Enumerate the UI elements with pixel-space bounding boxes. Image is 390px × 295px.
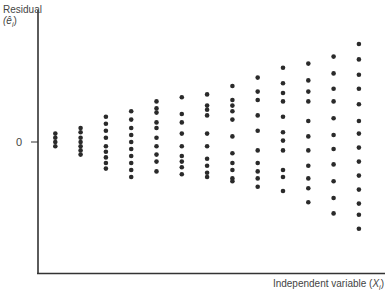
data-point <box>281 175 286 180</box>
data-point <box>180 112 185 117</box>
data-point <box>281 91 286 96</box>
data-point <box>331 99 336 104</box>
data-point <box>281 115 286 120</box>
data-point <box>331 54 336 59</box>
data-point <box>281 130 286 135</box>
data-point <box>154 169 159 174</box>
data-point <box>205 144 210 149</box>
data-point <box>281 81 286 86</box>
data-point <box>230 151 235 156</box>
data-point <box>78 130 83 135</box>
y-axis-label-close: ) <box>13 15 16 26</box>
data-point <box>205 171 210 176</box>
data-point <box>357 119 362 124</box>
data-point <box>331 179 336 184</box>
data-point <box>205 103 210 108</box>
data-point <box>281 189 286 194</box>
data-point <box>357 87 362 92</box>
data-point <box>230 109 235 114</box>
data-point <box>205 157 210 162</box>
data-point <box>104 150 109 155</box>
data-point <box>306 61 311 66</box>
data-point <box>205 175 210 180</box>
data-point <box>331 211 336 216</box>
data-point <box>104 144 109 149</box>
data-point <box>281 138 286 143</box>
data-point <box>154 99 159 104</box>
data-point <box>255 148 260 153</box>
data-point <box>180 144 185 149</box>
data-point <box>281 99 286 104</box>
data-point <box>255 129 260 134</box>
data-point <box>154 126 159 131</box>
data-point <box>306 186 311 191</box>
zero-tick-label: 0 <box>16 136 22 148</box>
data-point <box>357 42 362 47</box>
data-point <box>205 92 210 97</box>
data-point <box>281 148 286 153</box>
data-point <box>357 131 362 136</box>
data-point <box>331 87 336 92</box>
data-point <box>78 140 83 145</box>
data-point <box>230 179 235 184</box>
data-point <box>306 134 311 139</box>
data-point <box>357 213 362 218</box>
data-point <box>230 98 235 103</box>
data-point <box>104 161 109 166</box>
data-point <box>306 176 311 181</box>
data-point <box>357 173 362 178</box>
data-point <box>357 227 362 232</box>
data-point <box>104 122 109 127</box>
data-point <box>281 168 286 173</box>
data-point <box>78 144 83 149</box>
data-point <box>180 120 185 125</box>
data-point <box>306 119 311 124</box>
data-point <box>306 99 311 104</box>
x-axis-label: Independent variable (Xi) <box>273 278 384 291</box>
data-point <box>331 71 336 76</box>
data-point <box>129 117 134 122</box>
data-point <box>230 117 235 122</box>
data-point <box>180 172 185 177</box>
data-point <box>78 152 83 157</box>
x-axis-label-text: Independent variable ( <box>273 278 373 289</box>
data-point <box>230 161 235 166</box>
data-point <box>180 154 185 159</box>
data-point <box>306 148 311 153</box>
data-point <box>281 66 286 71</box>
data-point <box>331 196 336 201</box>
y-axis-label-open: (ê <box>3 15 12 26</box>
data-point <box>331 133 336 138</box>
data-point <box>154 152 159 157</box>
data-point <box>255 161 260 166</box>
data-point <box>180 159 185 164</box>
data-point <box>78 126 83 131</box>
data-point <box>306 78 311 83</box>
data-point <box>180 165 185 170</box>
data-point <box>53 144 58 149</box>
data-point <box>104 136 109 141</box>
data-point <box>255 75 260 80</box>
data-point <box>357 102 362 107</box>
data-point <box>205 108 210 113</box>
data-point <box>104 115 109 120</box>
data-point <box>306 164 311 169</box>
data-point <box>357 187 362 192</box>
data-point <box>255 176 260 181</box>
data-point <box>255 113 260 118</box>
data-points <box>53 42 361 231</box>
data-point <box>180 131 185 136</box>
data-point <box>154 136 159 141</box>
x-axis-label-close: ) <box>381 278 384 289</box>
data-point <box>230 168 235 173</box>
data-point <box>154 144 159 149</box>
data-point <box>205 164 210 169</box>
data-point <box>306 200 311 205</box>
data-point <box>357 201 362 206</box>
data-point <box>104 129 109 134</box>
data-point <box>154 159 159 164</box>
data-point <box>104 166 109 171</box>
data-point <box>255 169 260 174</box>
data-point <box>129 168 134 173</box>
data-point <box>306 89 311 94</box>
